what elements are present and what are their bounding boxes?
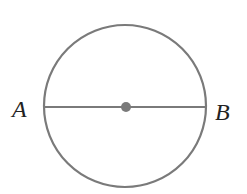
point-label-a: A <box>10 96 27 122</box>
center-point <box>121 102 131 112</box>
point-label-b: B <box>215 99 230 125</box>
circle-diagram: A B <box>0 0 247 194</box>
